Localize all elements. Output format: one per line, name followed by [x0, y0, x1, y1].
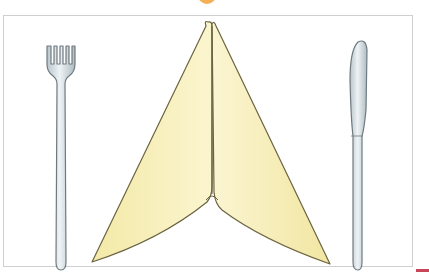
folded-napkin-icon: [92, 22, 330, 265]
fork-icon: [47, 46, 75, 270]
knife-icon: [350, 41, 367, 270]
place-setting-illustration: [0, 0, 429, 278]
